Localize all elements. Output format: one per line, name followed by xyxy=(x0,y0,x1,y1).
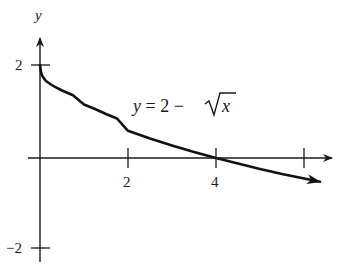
curve-y-equals-2-minus-sqrt-x xyxy=(40,65,320,182)
equation-y: y xyxy=(131,96,141,116)
y-tick-label-2: 2 xyxy=(15,57,23,73)
graph-canvas: y 2 −2 2 4 y = 2 − x xyxy=(0,0,346,265)
equation-rest: = 2 − xyxy=(141,96,184,116)
equation-label: y = 2 − x xyxy=(131,93,236,116)
sqrt-radical-icon xyxy=(205,93,236,115)
x-tick-label-4: 4 xyxy=(211,174,219,190)
y-tick-label-neg2: −2 xyxy=(6,240,22,256)
svg-text:y = 2 −: y = 2 − xyxy=(131,96,184,116)
y-axis-label: y xyxy=(33,7,42,23)
equation-x: x xyxy=(221,96,230,116)
x-tick-label-2: 2 xyxy=(123,174,131,190)
